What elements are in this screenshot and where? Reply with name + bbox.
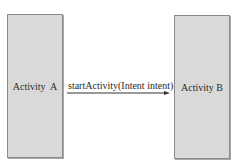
arrow-icon xyxy=(0,0,235,165)
